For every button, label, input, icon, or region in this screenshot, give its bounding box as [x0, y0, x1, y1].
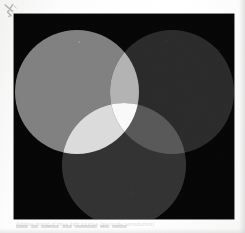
dust-speck [166, 41, 167, 42]
scanned-page: Additive mixing of three light sources (… [0, 0, 245, 233]
figure-plate [14, 14, 234, 219]
additive-color-mixing-diagram [14, 14, 234, 219]
page-edge-shadow-right [239, 0, 245, 233]
dust-speck [78, 41, 79, 42]
page-edge-shadow-bottom [0, 228, 245, 233]
dust-speck [131, 191, 132, 192]
dust-speck [219, 50, 220, 51]
print-grain [14, 14, 234, 219]
